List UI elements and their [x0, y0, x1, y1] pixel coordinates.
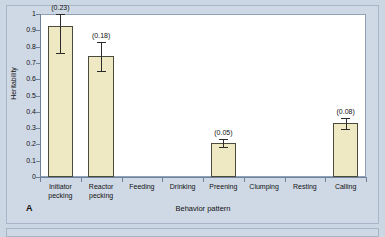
x-axis-tick [325, 178, 326, 182]
y-axis-tick-label: 0.4 [2, 108, 36, 115]
x-axis-tick [81, 178, 82, 182]
y-axis-tick-label: 0.3 [2, 124, 36, 131]
error-bar-stem [223, 139, 224, 147]
y-axis-tick [36, 30, 40, 31]
y-axis-tick [36, 14, 40, 15]
figure-panel: 10.90.80.70.60.50.40.30.20.10 Heritabili… [0, 0, 385, 237]
bar-calling [333, 123, 358, 177]
x-axis-tick [203, 178, 204, 182]
y-axis-tick [36, 63, 40, 64]
bar-value-label: (0.08) [326, 108, 366, 115]
x-axis-tick [366, 178, 367, 182]
y-axis-tick [36, 177, 40, 178]
error-bar-cap-lower [219, 147, 228, 148]
x-axis-category-label-line: pecking [77, 192, 126, 201]
error-bar-cap-upper [97, 42, 106, 43]
y-axis-tick-label: 0.2 [2, 140, 36, 147]
error-bar-stem [101, 42, 102, 71]
bar-value-label: (0.23) [40, 4, 80, 11]
y-axis-tick [36, 96, 40, 97]
y-axis-tick-label: 0 [2, 173, 36, 180]
error-bar-cap-lower [56, 53, 65, 54]
y-axis-tick [36, 128, 40, 129]
y-axis-tick-label: 0.8 [2, 43, 36, 50]
error-bar-cap-lower [341, 129, 350, 130]
bar-preening [211, 143, 236, 177]
error-bar-cap-upper [56, 14, 65, 15]
y-axis-tick [36, 112, 40, 113]
y-axis-tick-label: 0.6 [2, 75, 36, 82]
y-axis-tick-labels: 10.90.80.70.60.50.40.30.20.10 [0, 0, 36, 237]
x-axis-tick [40, 178, 41, 182]
bar-value-label: (0.18) [81, 32, 121, 39]
y-axis-tick [36, 79, 40, 80]
x-axis-tick [285, 178, 286, 182]
y-axis-tick-label: 0.7 [2, 59, 36, 66]
x-axis-title: Behavior pattern [40, 204, 366, 213]
x-axis-tick [162, 178, 163, 182]
error-bar-cap-lower [97, 71, 106, 72]
x-axis-category-label-line: Calling [321, 183, 370, 192]
error-bar-stem [60, 14, 61, 53]
x-axis-tick [244, 178, 245, 182]
y-axis-tick [36, 144, 40, 145]
error-bar-stem [346, 118, 347, 129]
error-bar-cap-upper [219, 139, 228, 140]
y-axis-tick-label: 0.5 [2, 92, 36, 99]
error-bar-cap-upper [341, 118, 350, 119]
y-axis-tick-label: 0.9 [2, 26, 36, 33]
bar-reactor-pecking [88, 56, 113, 177]
y-axis-tick-label: 1 [2, 10, 36, 17]
y-axis-tick [36, 47, 40, 48]
y-axis-title: Heritability [10, 54, 17, 114]
x-axis-tick [122, 178, 123, 182]
y-axis-tick [36, 161, 40, 162]
bar-value-label: (0.05) [203, 129, 243, 136]
y-axis-tick-label: 0.1 [2, 157, 36, 164]
panel-letter: A [26, 203, 33, 213]
figure-caption-strip [6, 228, 379, 237]
x-axis-category-label: Calling [321, 183, 370, 192]
